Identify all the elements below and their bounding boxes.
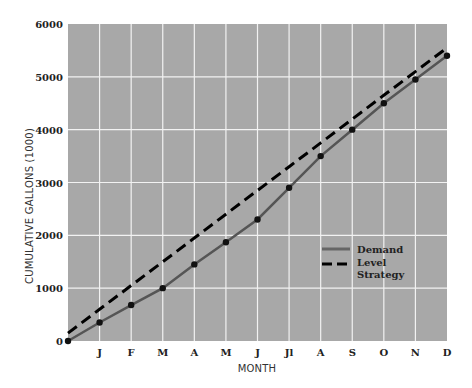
data-point — [317, 153, 323, 159]
legend-level-label-1: Level — [357, 257, 387, 268]
y-tick-label: 5000 — [35, 72, 63, 83]
y-tick-label: 3000 — [35, 178, 63, 189]
x-tick-label: S — [349, 347, 356, 358]
y-tick-label: 0 — [56, 336, 63, 347]
legend-demand-label: Demand — [357, 244, 403, 255]
data-point — [254, 216, 260, 222]
y-tick-label: 6000 — [35, 19, 63, 30]
x-tick-label: J — [96, 347, 102, 358]
y-tick-label: 1000 — [35, 283, 63, 294]
x-tick-label: Jl — [284, 347, 294, 358]
y-tick-label: 2000 — [35, 230, 63, 241]
x-tick-label: N — [411, 347, 420, 358]
data-point — [191, 261, 197, 267]
x-tick-label: M — [157, 347, 168, 358]
data-point — [286, 185, 292, 191]
data-point — [349, 126, 355, 132]
y-axis-label: CUMULATIVE GALLONS (1000) — [24, 128, 35, 284]
data-point — [381, 100, 387, 106]
data-point — [160, 285, 166, 291]
x-tick-label: A — [189, 347, 198, 358]
data-point — [65, 338, 71, 344]
x-tick-label: F — [128, 347, 135, 358]
x-axis-label: MONTH — [238, 363, 277, 374]
x-axis-ticks: JFMAMJJlASOND — [96, 347, 451, 358]
data-point — [96, 319, 102, 325]
x-tick-label: D — [443, 347, 452, 358]
line-chart: 0100020003000400050006000 JFMAMJJlASOND … — [0, 0, 472, 388]
x-tick-label: J — [254, 347, 260, 358]
data-point — [412, 76, 418, 82]
chart-container: 0100020003000400050006000 JFMAMJJlASOND … — [0, 0, 472, 388]
data-point — [128, 302, 134, 308]
x-tick-label: A — [316, 347, 325, 358]
data-point — [444, 53, 450, 59]
x-tick-label: O — [379, 347, 388, 358]
x-tick-label: M — [220, 347, 231, 358]
data-point — [223, 239, 229, 245]
y-tick-label: 4000 — [35, 125, 63, 136]
legend-level-label-2: Strategy — [357, 269, 406, 280]
y-axis-ticks: 0100020003000400050006000 — [35, 19, 63, 347]
